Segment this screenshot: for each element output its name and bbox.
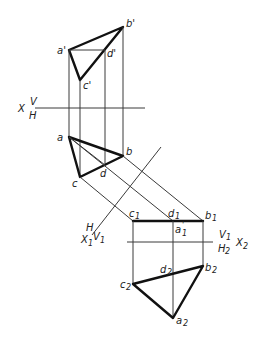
label-x2-v-sub: 1 xyxy=(226,233,231,242)
label-b2: b xyxy=(205,262,211,273)
label-b1: b xyxy=(205,210,211,221)
h2-labels: d 2 b 2 c 2 a 2 xyxy=(120,262,217,328)
axis-x-labels: X V H xyxy=(17,96,38,121)
label-a2-sub: 2 xyxy=(183,319,188,328)
label-a-top: a xyxy=(57,132,63,143)
label-b-top: b xyxy=(126,146,132,157)
label-b2-sub: 2 xyxy=(212,266,217,275)
axis-x2-labels: V 1 H 2 X 2 xyxy=(218,229,248,256)
label-x2-h-sub: 2 xyxy=(225,247,230,256)
label-c2-sub: 2 xyxy=(126,283,131,292)
label-d-front: d' xyxy=(107,48,116,59)
label-d2-sub: 2 xyxy=(167,268,172,277)
label-v: V xyxy=(30,96,38,107)
label-d2: d xyxy=(160,264,167,275)
label-d-top: d xyxy=(100,168,107,179)
label-d1-sub: 1 xyxy=(175,212,180,221)
label-b1-sub: 1 xyxy=(212,214,217,223)
axis-x1-labels: H X 1 V 1 xyxy=(80,222,105,248)
label-a1-prime: ' xyxy=(182,221,184,230)
projection-diagram: X V H a' b' d' c' a b d c H X 1 V 1 c 1 … xyxy=(0,0,264,345)
label-a2: a xyxy=(176,315,182,326)
label-a1-sub: 1 xyxy=(182,229,187,238)
label-d1: d xyxy=(168,208,175,219)
label-a-front: a' xyxy=(57,45,66,56)
label-c-front: c' xyxy=(83,80,91,91)
label-b-front: b' xyxy=(126,18,135,29)
label-x1-v-sub: 1 xyxy=(100,236,105,245)
label-c-top: c xyxy=(72,178,78,189)
label-x2-x-sub: 2 xyxy=(243,242,248,251)
label-x: X xyxy=(17,103,26,114)
label-c1-sub: 1 xyxy=(135,212,140,221)
label-a1: a xyxy=(175,224,181,235)
label-h: H xyxy=(29,110,37,121)
